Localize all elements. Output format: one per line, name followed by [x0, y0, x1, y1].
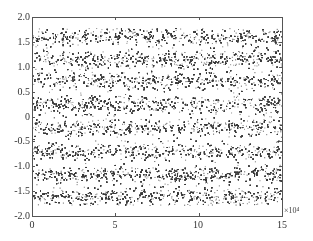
x-tick-label: 5 — [105, 220, 125, 230]
y-tick-label: 0 — [4, 112, 30, 122]
y-tick-label: 1.0 — [4, 62, 30, 72]
x-axis-exponent: ×10⁴ — [284, 206, 299, 215]
y-tick-label: 1.5 — [4, 37, 30, 47]
y-tick-label: -1.5 — [4, 186, 30, 196]
y-tick-label: -0.5 — [4, 136, 30, 146]
y-tick-label: -1.0 — [4, 161, 30, 171]
y-tick-label: 0.5 — [4, 87, 30, 97]
x-tick-label: 10 — [188, 220, 208, 230]
y-tick-label: 2.0 — [4, 12, 30, 22]
scatter-plot-canvas — [0, 0, 313, 241]
x-tick-label: 0 — [22, 220, 42, 230]
x-tick-label: 15 — [272, 220, 292, 230]
